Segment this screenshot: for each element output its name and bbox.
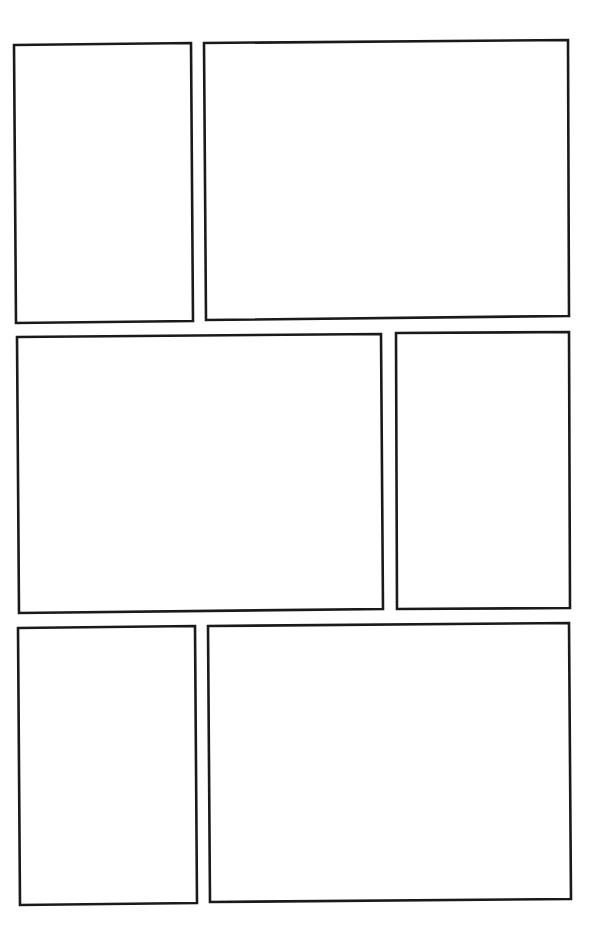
panel-2 [204,40,569,320]
panel-4 [396,332,570,609]
panel-3 [17,334,383,613]
panel-1 [14,43,193,323]
comic-page [0,0,602,931]
panel-layer [0,0,602,931]
panel-5 [18,626,197,905]
panel-6 [208,623,571,902]
